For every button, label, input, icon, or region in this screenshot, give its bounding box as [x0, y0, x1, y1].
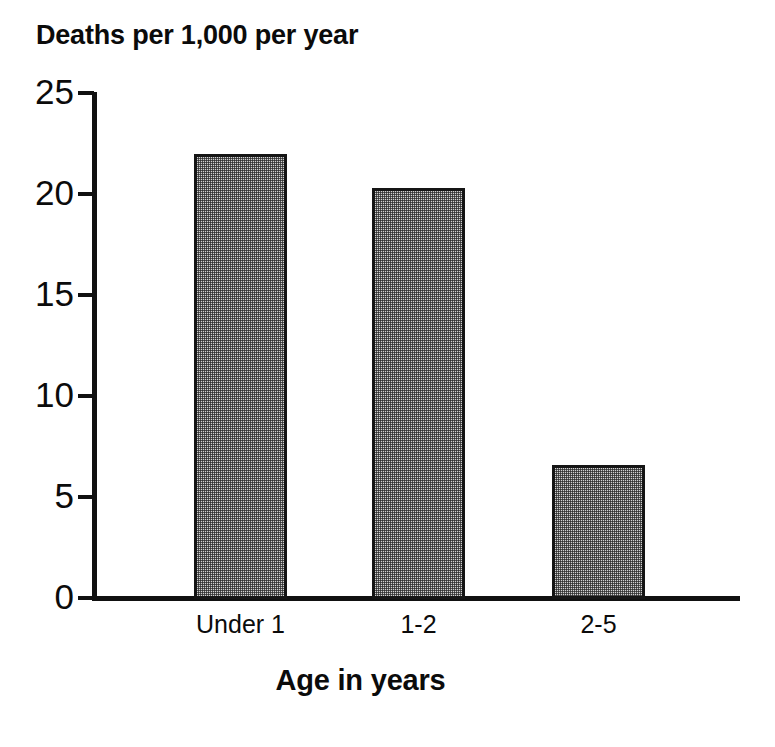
- bar-1-2: [372, 188, 465, 599]
- y-axis-tick-label: 20: [0, 175, 74, 210]
- chart-page: Deaths per 1,000 per year 2520151050 Und…: [0, 0, 775, 747]
- x-axis-label-1-2: 1-2: [400, 610, 436, 639]
- y-axis-tick-mark: [78, 394, 94, 398]
- y-axis-tick-label: 5: [0, 478, 74, 513]
- bar-2-5: [552, 465, 645, 599]
- chart-title: Deaths per 1,000 per year: [36, 20, 358, 51]
- x-axis-label-2-5: 2-5: [580, 610, 616, 639]
- y-axis-line: [92, 92, 97, 600]
- y-axis-tick-mark: [78, 91, 94, 95]
- x-axis-title: Age in years: [0, 664, 775, 697]
- y-axis-tick-label: 0: [0, 579, 74, 614]
- y-axis-tick-mark: [78, 192, 94, 196]
- y-axis-tick-label: 25: [0, 74, 74, 109]
- y-axis-tick-label: 10: [0, 377, 74, 412]
- x-axis-label-under-1: Under 1: [196, 610, 285, 639]
- x-axis-title-text: Age in years: [275, 664, 445, 696]
- y-axis-tick-label: 15: [0, 276, 74, 311]
- y-axis-tick-mark: [78, 596, 94, 600]
- y-axis-tick-mark: [78, 293, 94, 297]
- y-axis-tick-mark: [78, 495, 94, 499]
- bar-under-1: [194, 154, 287, 599]
